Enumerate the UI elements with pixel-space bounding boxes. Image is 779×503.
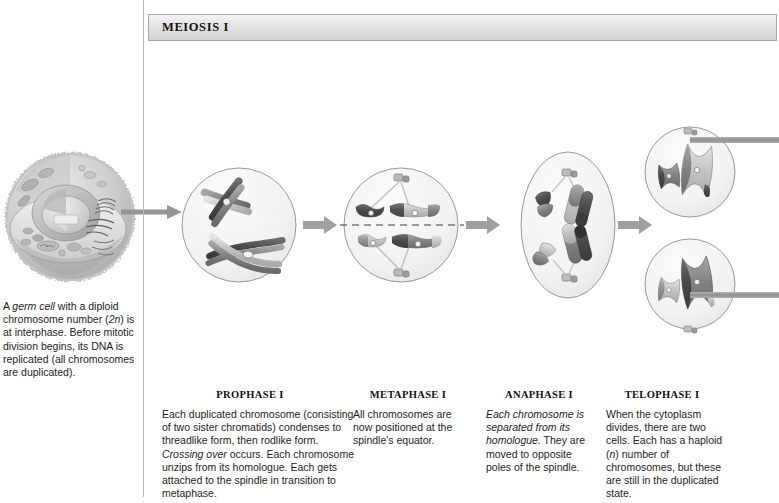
stage-body-anaphase: Each chromosome is separated from its ho… bbox=[486, 408, 598, 474]
interphase-column: A germ cell with a diploid chromosome nu… bbox=[0, 0, 143, 497]
caption-column-anaphase: ANAPHASE I Each chromosome is separated … bbox=[486, 389, 598, 474]
right-arrow-icon-1 bbox=[303, 216, 337, 234]
prophase-italic-crossing-over: Crossing over bbox=[162, 448, 227, 460]
stage-art-prophase bbox=[182, 168, 296, 282]
metaphase-text-1: All chromosomes are now positioned at th… bbox=[353, 408, 452, 446]
caption-text-a: A bbox=[3, 300, 12, 312]
meiosis-i-panel: MEIOSIS I bbox=[148, 14, 779, 497]
caption-italic-2n: 2n bbox=[109, 313, 121, 325]
stage-heading-telophase: TELOPHASE I bbox=[606, 389, 718, 400]
stage-body-telophase: When the cytoplasm divides, there are tw… bbox=[606, 408, 726, 500]
meiosis-stage-illustrations bbox=[148, 42, 779, 382]
panel-header-bar bbox=[148, 14, 777, 41]
stage-heading-anaphase: ANAPHASE I bbox=[486, 389, 592, 400]
right-arrow-icon-2 bbox=[466, 216, 500, 234]
caption-column-metaphase: METAPHASE I All chromosomes are now posi… bbox=[353, 389, 463, 448]
stage-heading-prophase: PROPHASE I bbox=[162, 389, 338, 400]
prophase-text-1: Each duplicated chromosome (consisting o… bbox=[162, 408, 353, 446]
column-divider bbox=[143, 0, 144, 497]
stage-heading-metaphase: METAPHASE I bbox=[353, 389, 463, 400]
stage-body-prophase: Each duplicated chromosome (consisting o… bbox=[162, 408, 358, 500]
horizontal-connector-bar-upper bbox=[690, 137, 779, 143]
telophase-text-2: ) number of chromosomes, but these are s… bbox=[606, 448, 721, 500]
germ-cell-interphase-illustration bbox=[2, 143, 138, 295]
page-title: MEIOSIS I bbox=[162, 20, 229, 35]
stage-body-metaphase: All chromosomes are now positioned at th… bbox=[353, 408, 463, 448]
caption-italic-germ-cell: germ cell bbox=[12, 300, 55, 312]
germ-cell-caption: A germ cell with a diploid chromosome nu… bbox=[3, 300, 137, 379]
stage-art-metaphase bbox=[340, 168, 464, 282]
right-arrow-icon-3 bbox=[618, 216, 652, 234]
caption-column-prophase: PROPHASE I Each duplicated chromosome (c… bbox=[162, 389, 358, 500]
caption-column-telophase: TELOPHASE I When the cytoplasm divides, … bbox=[606, 389, 726, 500]
stage-art-anaphase bbox=[521, 152, 615, 298]
stage-art-telophase bbox=[645, 127, 735, 333]
horizontal-connector-bar-lower bbox=[690, 292, 779, 298]
stage-captions: PROPHASE I Each duplicated chromosome (c… bbox=[148, 389, 779, 503]
